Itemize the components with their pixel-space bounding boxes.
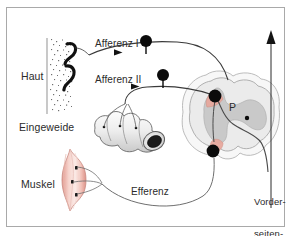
skin-structure xyxy=(47,38,89,114)
label-haut: Haut xyxy=(21,71,44,83)
muscle-structure xyxy=(62,149,102,211)
ganglion-afferenz-ii-soma xyxy=(157,69,169,81)
vorderseitenstrang-line-1: Vorder- xyxy=(254,197,286,208)
dorsal-horn-neuron-soma xyxy=(209,90,222,103)
viscera-structure xyxy=(95,104,168,154)
muscle-receptor-2 xyxy=(71,180,74,184)
muscle-receptor-1 xyxy=(75,166,78,170)
figure-frame: P xyxy=(6,7,285,227)
skin-receptor-ending-icon xyxy=(65,43,76,64)
label-vorderseitenstrang: Vorder- seiten- strang xyxy=(254,176,286,236)
label-eingeweide: Eingeweide xyxy=(19,122,74,134)
muscle-belly xyxy=(62,149,86,211)
label-afferenz-ii: Afferenz II xyxy=(95,74,142,85)
p-center-dot-marker xyxy=(245,116,249,120)
pathway-efferenz xyxy=(102,158,214,206)
label-efferenz: Efferenz xyxy=(131,186,169,197)
ventral-horn-neuron-soma xyxy=(207,145,220,158)
p-marker-label: P xyxy=(229,101,236,113)
label-afferenz-i: Afferenz I xyxy=(95,38,139,49)
muscle-receptor-3 xyxy=(75,193,78,197)
label-muskel: Muskel xyxy=(21,179,55,191)
figure-root: P xyxy=(0,0,292,236)
skin-stipple-icon xyxy=(50,39,72,111)
afferenz-i-arrowhead xyxy=(114,49,123,55)
spinal-cord: P xyxy=(182,71,279,159)
vorderseitenstrang-line-2: seiten- xyxy=(254,229,286,236)
ganglion-afferenz-i-soma xyxy=(140,35,152,47)
